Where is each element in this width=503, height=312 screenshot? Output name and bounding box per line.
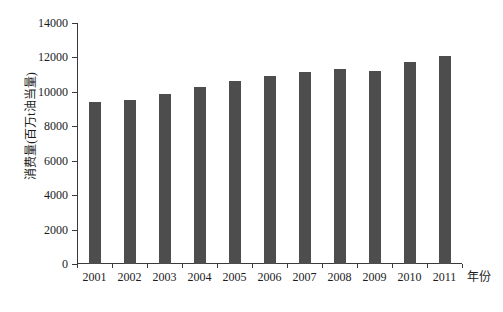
bar bbox=[439, 56, 451, 264]
bar bbox=[124, 100, 136, 264]
x-tick-label: 2002 bbox=[110, 270, 150, 284]
y-tick-label: 4000 bbox=[20, 189, 68, 201]
y-tick-label: 10000 bbox=[20, 86, 68, 98]
y-tick-label: 6000 bbox=[20, 155, 68, 167]
y-tick-mark bbox=[72, 92, 77, 93]
x-tick-label: 2006 bbox=[250, 270, 290, 284]
x-tick-mark bbox=[322, 264, 323, 268]
y-tick-label: 0 bbox=[20, 258, 68, 270]
y-tick-mark bbox=[72, 230, 77, 231]
bar bbox=[404, 62, 416, 264]
bar bbox=[264, 76, 276, 264]
y-tick-mark bbox=[72, 23, 77, 24]
x-tick-label: 2003 bbox=[145, 270, 185, 284]
x-tick-mark bbox=[182, 264, 183, 268]
bar bbox=[229, 81, 241, 264]
x-tick-mark bbox=[357, 264, 358, 268]
x-tick-mark bbox=[217, 264, 218, 268]
y-tick-mark bbox=[72, 195, 77, 196]
x-tick-mark bbox=[287, 264, 288, 268]
x-tick-mark bbox=[252, 264, 253, 268]
x-axis-title: 年份 bbox=[467, 270, 491, 284]
bar-chart-figure: 消费量(百万t油当量) 年份 0200040006000800010000120… bbox=[0, 0, 503, 312]
x-tick-mark bbox=[112, 264, 113, 268]
x-tick-label: 2010 bbox=[390, 270, 430, 284]
y-tick-label: 12000 bbox=[20, 51, 68, 63]
x-tick-label: 2008 bbox=[320, 270, 360, 284]
bar bbox=[89, 102, 101, 264]
x-tick-mark bbox=[392, 264, 393, 268]
y-axis-line bbox=[77, 23, 78, 264]
bar bbox=[194, 87, 206, 264]
y-tick-label: 2000 bbox=[20, 224, 68, 236]
x-tick-label: 2004 bbox=[180, 270, 220, 284]
y-tick-mark bbox=[72, 161, 77, 162]
x-tick-label: 2007 bbox=[285, 270, 325, 284]
bar bbox=[299, 72, 311, 264]
y-tick-label: 14000 bbox=[20, 17, 68, 29]
x-tick-label: 2011 bbox=[425, 270, 465, 284]
x-tick-label: 2005 bbox=[215, 270, 255, 284]
x-tick-mark bbox=[77, 264, 78, 268]
x-tick-mark bbox=[147, 264, 148, 268]
bar bbox=[159, 94, 171, 264]
y-tick-mark bbox=[72, 57, 77, 58]
bar bbox=[334, 69, 346, 264]
x-tick-mark bbox=[427, 264, 428, 268]
y-tick-label: 8000 bbox=[20, 120, 68, 132]
x-tick-label: 2001 bbox=[75, 270, 115, 284]
x-tick-mark bbox=[462, 264, 463, 268]
y-tick-mark bbox=[72, 126, 77, 127]
x-tick-label: 2009 bbox=[355, 270, 395, 284]
bar bbox=[369, 71, 381, 264]
